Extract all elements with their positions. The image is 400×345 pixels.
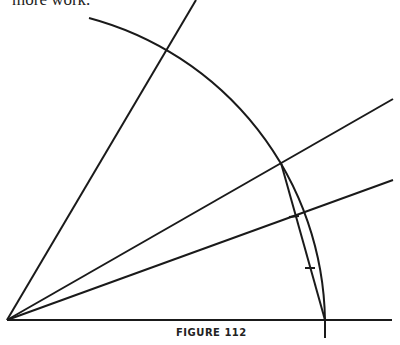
geometric-construction xyxy=(0,0,400,345)
chord xyxy=(281,163,325,320)
ray-lower xyxy=(7,180,393,320)
ray-upper xyxy=(7,99,393,320)
tick-mark-1 xyxy=(289,216,299,217)
figure-caption: FIGURE 112 xyxy=(176,327,247,338)
arc xyxy=(89,18,325,338)
ray-steep xyxy=(7,0,196,320)
